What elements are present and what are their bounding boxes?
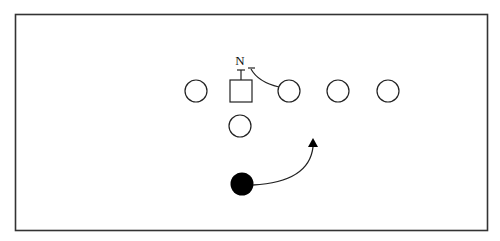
nose-label: N [235,53,245,68]
player-circle-back [229,115,251,137]
play-diagram: N [0,0,500,241]
center-square [230,80,252,102]
player-circle-5 [377,80,399,102]
diagram-frame [16,15,488,231]
player-circle-3 [278,80,300,102]
player-circle-1 [185,80,207,102]
player-circle-4 [327,80,349,102]
ball-carrier-filled-circle [231,173,254,196]
